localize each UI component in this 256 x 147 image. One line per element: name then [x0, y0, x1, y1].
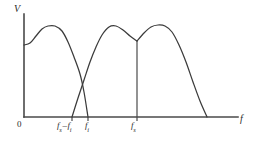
tick-subscript-i: i: [87, 126, 89, 133]
tick-label-fi: fi: [85, 121, 89, 132]
frequency-spectrum-figure: V f 0 fs–fi fi fs: [0, 0, 256, 147]
x-axis-label: f: [240, 114, 243, 124]
origin-label: 0: [17, 120, 22, 129]
spectrum-plot: [0, 0, 256, 147]
curve-baseband-lobe: [24, 25, 88, 117]
curve-alias-lobe: [72, 26, 137, 117]
tick-subscript-s: s: [59, 126, 62, 133]
tick-subscript-i: i: [70, 126, 72, 133]
curve-sampled-upper-lobe: [137, 25, 207, 117]
y-axis-label: V: [14, 4, 20, 14]
tick-subscript-s: s: [133, 126, 136, 133]
tick-label-fs: fs: [131, 121, 136, 132]
tick-label-fs-minus-fi: fs–fi: [57, 121, 72, 132]
